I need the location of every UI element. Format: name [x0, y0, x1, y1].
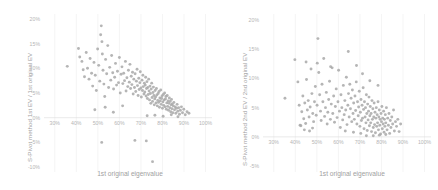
scatter-point: [140, 96, 143, 99]
scatter-point: [121, 104, 124, 107]
scatter-point: [340, 106, 343, 109]
y-tick-label: 0%: [18, 115, 40, 121]
scatter-point: [380, 120, 383, 123]
scatter-point: [378, 124, 381, 127]
scatter-point: [284, 97, 287, 100]
scatter-point: [134, 72, 137, 75]
scatter-point: [394, 120, 397, 123]
scatter-point: [368, 79, 371, 82]
scatter-point: [88, 78, 91, 81]
scatter-point: [369, 105, 372, 108]
scatter-point: [391, 123, 394, 126]
y-tick-label: 10%: [237, 75, 259, 81]
scatter-point: [101, 53, 104, 56]
scatter-point: [134, 90, 137, 93]
scatter-point: [121, 82, 124, 85]
scatter-point: [90, 72, 93, 75]
scatter-point: [97, 64, 100, 67]
scatter-point: [106, 44, 109, 47]
scatter-point: [137, 94, 140, 97]
x-tick-label: 100%: [196, 120, 216, 126]
scatter-point: [333, 121, 336, 124]
scatter-point: [343, 113, 346, 116]
scatter-point: [133, 139, 136, 142]
x-tick-label: 60%: [109, 120, 129, 126]
x-tick-label: 80%: [152, 120, 172, 126]
scatter-point: [389, 119, 392, 122]
scatter-point: [170, 107, 173, 110]
scatter-point: [133, 86, 136, 89]
scatter-point: [352, 102, 355, 105]
scatter-point: [176, 103, 179, 106]
scatter-point: [303, 102, 306, 105]
scatter-point: [293, 58, 296, 61]
scatter-point: [182, 108, 185, 111]
scatter-point: [314, 85, 317, 88]
scatter-point: [384, 113, 387, 116]
scatter-point: [364, 106, 367, 109]
scatter-point: [146, 80, 149, 83]
scatter-point: [372, 134, 375, 137]
scatter-point: [163, 92, 166, 95]
scatter-point: [376, 121, 379, 124]
scatter-point: [368, 96, 371, 99]
scatter-point: [151, 100, 154, 103]
scatter-point: [383, 125, 386, 128]
scatter-point: [367, 118, 370, 121]
scatter-point: [381, 127, 384, 130]
scatter-point: [188, 112, 191, 115]
scatter-point: [335, 87, 338, 90]
scatter-point: [355, 80, 358, 83]
scatter-point: [111, 71, 114, 74]
scatter-point: [176, 110, 179, 113]
scatter-point: [313, 100, 316, 103]
scatter-point: [147, 78, 150, 81]
scatter-point: [146, 114, 149, 117]
scatter-point: [152, 91, 155, 94]
scatter-point: [159, 89, 162, 92]
scatter-point: [103, 95, 106, 98]
scatter-point: [329, 118, 332, 121]
scatter-point: [340, 93, 343, 96]
scatter-point: [304, 122, 307, 125]
scatter-point: [311, 112, 314, 115]
scatter-point: [128, 63, 131, 66]
scatter-point: [362, 86, 365, 89]
scatter-point: [349, 107, 352, 110]
scatter-point: [305, 78, 308, 81]
scatter-point: [343, 99, 346, 102]
scatter-point: [338, 110, 341, 113]
scatter-point: [302, 117, 305, 120]
scatter-point: [378, 109, 381, 112]
scatter-point: [393, 130, 396, 133]
x-tick-label: 70%: [131, 120, 151, 126]
y-tick-label: 15%: [237, 46, 259, 52]
scatter-point: [334, 105, 337, 108]
scatter-point: [166, 94, 169, 97]
scatter-point: [178, 113, 181, 116]
scatter-point: [86, 67, 89, 70]
scatter-point: [347, 92, 350, 95]
y-tick-label: 0%: [237, 134, 259, 140]
scatter-point: [179, 109, 182, 112]
scatter-point: [162, 115, 165, 118]
scatter-point: [369, 121, 372, 124]
scatter-point: [164, 105, 167, 108]
scatter-point: [160, 103, 163, 106]
scatter-point: [303, 128, 306, 131]
scatter-point: [299, 124, 302, 127]
scatter-point: [361, 117, 364, 120]
scatter-point: [164, 97, 167, 100]
scatter-point: [330, 103, 333, 106]
scatter-point: [347, 50, 350, 53]
scatter-point: [316, 37, 319, 40]
scatter-point: [389, 126, 392, 129]
scatter-point: [160, 97, 163, 100]
scatter-point: [153, 114, 156, 117]
scatter-point: [104, 106, 107, 109]
scatter-point: [99, 33, 102, 36]
scatter-point: [161, 107, 164, 110]
scatter-point: [66, 65, 69, 68]
scatter-point: [141, 79, 144, 82]
scatter-point: [337, 69, 340, 72]
